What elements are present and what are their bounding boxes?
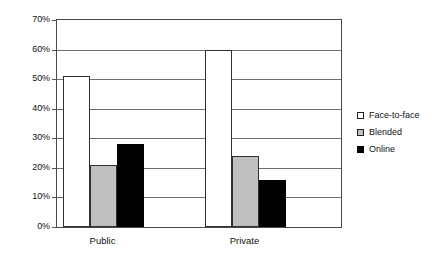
y-axis-tick: [52, 197, 56, 198]
y-axis-tick: [52, 109, 56, 110]
y-axis: 0%10%20%30%40%50%60%70%: [8, 0, 50, 261]
white-square-icon: [357, 112, 364, 119]
y-axis-tick-label: 60%: [16, 45, 50, 54]
bar-private-face-to-face: [205, 50, 232, 227]
plot-area: [56, 19, 342, 228]
y-axis-tick: [52, 168, 56, 169]
y-axis-tick-label: 30%: [16, 133, 50, 142]
y-axis-tick-label: 40%: [16, 104, 50, 113]
gridline: [57, 109, 341, 110]
gridline: [57, 50, 341, 51]
y-axis-tick: [52, 50, 56, 51]
gridline: [57, 138, 341, 139]
y-axis-tick-label: 70%: [16, 15, 50, 24]
legend-item: Online: [357, 142, 442, 157]
y-axis-tick: [52, 20, 56, 21]
y-axis-tick-label: 10%: [16, 192, 50, 201]
bar-private-online: [259, 180, 286, 227]
y-axis-tick: [52, 79, 56, 80]
legend-item-label: Online: [369, 145, 395, 154]
y-axis-tick-label: 20%: [16, 163, 50, 172]
y-axis-tick-label: 50%: [16, 74, 50, 83]
y-axis-tick-label: 0%: [16, 222, 50, 231]
grouped-bar-chart: 0%10%20%30%40%50%60%70% PublicPrivate Fa…: [0, 0, 442, 261]
y-axis-tick: [52, 227, 56, 228]
legend-item-label: Blended: [369, 128, 402, 137]
bar-private-blended: [232, 156, 259, 227]
legend-item: Face-to-face: [357, 108, 442, 123]
x-axis-tick-label: Private: [205, 236, 285, 246]
legend: Face-to-faceBlendedOnline: [357, 108, 442, 159]
bar-public-face-to-face: [63, 76, 90, 227]
gray-square-icon: [357, 129, 364, 136]
legend-item: Blended: [357, 125, 442, 140]
bar-public-blended: [90, 165, 117, 227]
x-axis-tick-label: Public: [63, 236, 143, 246]
legend-item-label: Face-to-face: [369, 111, 420, 120]
black-square-icon: [357, 146, 364, 153]
gridline: [57, 79, 341, 80]
y-axis-tick: [52, 138, 56, 139]
bar-public-online: [117, 144, 144, 227]
